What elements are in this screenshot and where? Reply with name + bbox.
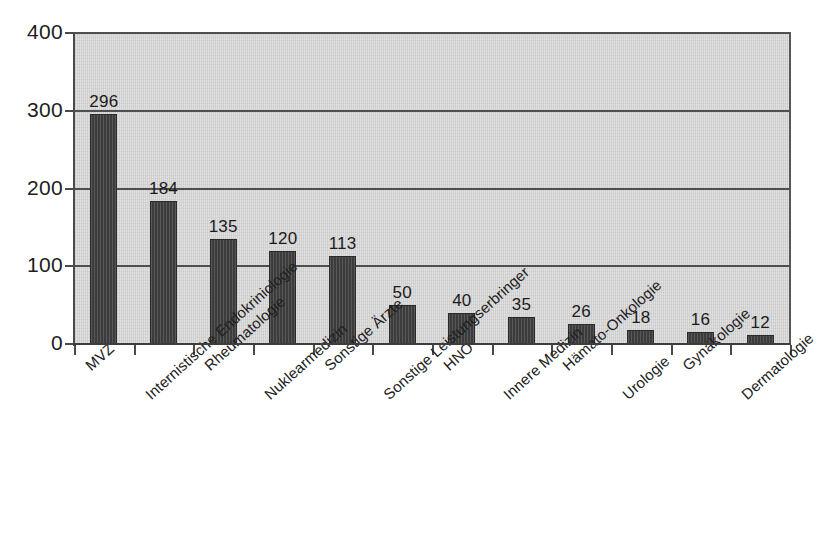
bar-value-label: 50 xyxy=(372,283,432,303)
x-tick xyxy=(730,345,732,355)
bar-value-label: 26 xyxy=(551,302,611,322)
y-axis-line xyxy=(73,32,75,346)
x-tick xyxy=(611,345,613,355)
x-tick xyxy=(492,345,494,355)
gridline-100 xyxy=(74,265,790,267)
y-axis-label-200: 200 xyxy=(27,176,63,200)
x-tick xyxy=(372,345,374,355)
bar-value-label: 184 xyxy=(134,179,194,199)
x-tick xyxy=(253,345,255,355)
y-axis-label-100: 100 xyxy=(27,253,63,277)
bar-value-label: 113 xyxy=(313,234,373,254)
y-axis-label-400: 400 xyxy=(27,20,63,44)
gridline-300 xyxy=(74,110,790,112)
bar xyxy=(150,201,177,344)
x-tick xyxy=(134,345,136,355)
y-axis-label-0: 0 xyxy=(51,331,63,355)
bar xyxy=(508,317,535,344)
y-axis-label-300: 300 xyxy=(27,98,63,122)
bar xyxy=(90,114,117,344)
x-axis-line xyxy=(73,343,791,345)
x-axis-label: Urologie xyxy=(619,352,672,403)
x-tick xyxy=(74,345,76,355)
gridline-400 xyxy=(74,32,790,34)
x-tick xyxy=(671,345,673,355)
bar-value-label: 296 xyxy=(74,92,134,112)
bar xyxy=(627,330,654,344)
bar-value-label: 135 xyxy=(193,217,253,237)
bar-value-label: 120 xyxy=(253,229,313,249)
